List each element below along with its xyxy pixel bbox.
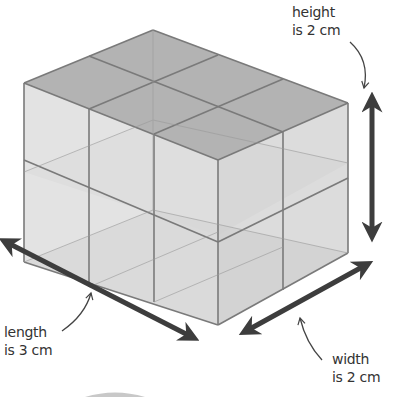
cuboid-diagram xyxy=(0,0,396,397)
width-label-line2: is 2 cm xyxy=(332,368,380,386)
decorative-arc xyxy=(85,393,145,397)
height-label: height is 2 cm xyxy=(292,3,340,39)
width-label-line1: width xyxy=(332,350,380,368)
height-label-line2: is 2 cm xyxy=(292,21,340,39)
length-pointer-arrow xyxy=(62,293,91,331)
height-pointer-arrow xyxy=(350,42,365,88)
length-label-line1: length xyxy=(4,323,52,341)
width-pointer-arrow xyxy=(300,318,322,360)
length-label-line2: is 3 cm xyxy=(4,341,52,359)
width-label: width is 2 cm xyxy=(332,350,380,386)
height-label-line1: height xyxy=(292,3,340,21)
length-label: length is 3 cm xyxy=(4,323,52,359)
